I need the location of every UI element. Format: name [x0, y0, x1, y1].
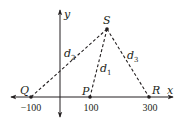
point-s	[105, 27, 109, 31]
label-p: P	[81, 85, 90, 98]
tick-label-neg100: −100	[21, 102, 42, 113]
distance-diagram: Q P R S x y d2 d1 d3 −100 100 300	[0, 0, 179, 126]
label-d2: d2	[64, 47, 76, 62]
label-r: R	[151, 84, 160, 97]
point-q	[29, 95, 33, 99]
tick-label-300: 300	[143, 102, 158, 113]
label-q: Q	[20, 84, 29, 97]
segment-d2	[31, 29, 107, 97]
label-d3: d3	[127, 49, 139, 64]
segment-d3	[107, 29, 149, 97]
tick-label-100: 100	[84, 102, 99, 113]
x-axis-label: x	[167, 84, 174, 97]
label-d1: d1	[100, 62, 112, 77]
y-axis-label: y	[63, 8, 71, 21]
label-s: S	[103, 14, 111, 27]
point-r	[147, 95, 151, 99]
